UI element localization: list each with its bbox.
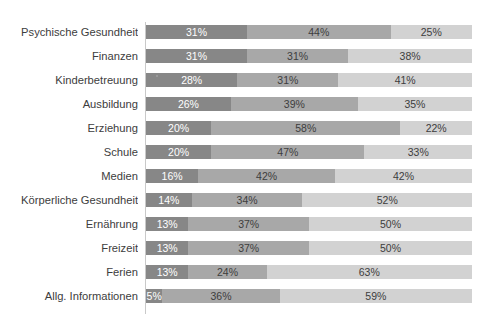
segment-value-label: 36%	[210, 291, 231, 302]
scan-artifact	[156, 75, 158, 77]
stacked-bar: 26%39%35%	[146, 97, 472, 111]
stacked-bar: 13%37%50%	[146, 217, 472, 231]
chart-row: Allg. Informationen5%36%59%	[0, 284, 484, 308]
segment-value-label: 5%	[147, 291, 162, 302]
segment-value-label: 35%	[404, 99, 425, 110]
bar-segment-series-1: 20%	[146, 145, 211, 159]
segment-value-label: 33%	[408, 147, 429, 158]
segment-value-label: 38%	[400, 51, 421, 62]
stacked-bar-chart: Psychische Gesundheit31%44%25%Finanzen31…	[0, 0, 484, 321]
bar-segment-series-2: 36%	[162, 289, 279, 303]
segment-value-label: 47%	[277, 147, 298, 158]
stacked-bar: 5%36%59%	[146, 289, 472, 303]
bar-segment-series-2: 31%	[237, 73, 338, 87]
segment-value-label: 13%	[157, 267, 178, 278]
segment-value-label: 20%	[168, 123, 189, 134]
chart-row: Ausbildung26%39%35%	[0, 92, 484, 116]
stacked-bar: 14%34%52%	[146, 193, 472, 207]
bar-segment-series-3: 25%	[391, 25, 473, 39]
stacked-bar: 13%37%50%	[146, 241, 472, 255]
bar-segment-series-3: 50%	[309, 241, 472, 255]
bar-segment-series-1: 16%	[146, 169, 198, 183]
bar-segment-series-3: 63%	[267, 265, 472, 279]
bar-segment-series-3: 33%	[364, 145, 472, 159]
segment-value-label: 14%	[158, 195, 179, 206]
bar-segment-series-3: 52%	[302, 193, 472, 207]
segment-value-label: 59%	[365, 291, 386, 302]
segment-value-label: 50%	[380, 219, 401, 230]
stacked-bar: 16%42%42%	[146, 169, 472, 183]
bar-segment-series-3: 59%	[280, 289, 472, 303]
chart-row: Ferien13%24%63%	[0, 260, 484, 284]
segment-value-label: 31%	[186, 27, 207, 38]
bar-segment-series-2: 37%	[188, 241, 309, 255]
stacked-bar: 20%47%33%	[146, 145, 472, 159]
category-label: Kinderbetreuung	[0, 68, 138, 92]
chart-row: Ernährung13%37%50%	[0, 212, 484, 236]
segment-value-label: 26%	[178, 99, 199, 110]
segment-value-label: 25%	[421, 27, 442, 38]
category-label: Ferien	[0, 260, 138, 284]
bar-segment-series-2: 42%	[198, 169, 335, 183]
segment-value-label: 39%	[284, 99, 305, 110]
bar-segment-series-1: 13%	[146, 265, 188, 279]
bar-segment-series-3: 50%	[309, 217, 472, 231]
category-label: Psychische Gesundheit	[0, 20, 138, 44]
bar-segment-series-3: 35%	[358, 97, 472, 111]
segment-value-label: 31%	[287, 51, 308, 62]
stacked-bar: 20%58%22%	[146, 121, 472, 135]
segment-value-label: 50%	[380, 243, 401, 254]
bar-segment-series-1: 28%	[146, 73, 237, 87]
chart-row: Kinderbetreuung28%31%41%	[0, 68, 484, 92]
category-label: Allg. Informationen	[0, 284, 138, 308]
bar-segment-series-1: 31%	[146, 49, 247, 63]
bar-segment-series-1: 14%	[146, 193, 192, 207]
stacked-bar: 31%31%38%	[146, 49, 472, 63]
chart-row: Erziehung20%58%22%	[0, 116, 484, 140]
segment-value-label: 37%	[238, 219, 259, 230]
segment-value-label: 44%	[308, 27, 329, 38]
category-label: Schule	[0, 140, 138, 164]
bar-segment-series-3: 38%	[348, 49, 472, 63]
bar-segment-series-2: 24%	[188, 265, 266, 279]
segment-value-label: 20%	[168, 147, 189, 158]
segment-value-label: 13%	[157, 243, 178, 254]
category-label: Ausbildung	[0, 92, 138, 116]
segment-value-label: 16%	[162, 171, 183, 182]
segment-value-label: 63%	[359, 267, 380, 278]
bar-segment-series-3: 22%	[400, 121, 472, 135]
category-label: Finanzen	[0, 44, 138, 68]
category-label: Körperliche Gesundheit	[0, 188, 138, 212]
chart-row: Freizeit13%37%50%	[0, 236, 484, 260]
bar-segment-series-1: 5%	[146, 289, 162, 303]
segment-value-label: 58%	[295, 123, 316, 134]
bar-segment-series-2: 47%	[211, 145, 364, 159]
bar-segment-series-1: 26%	[146, 97, 231, 111]
bar-segment-series-2: 58%	[211, 121, 400, 135]
segment-value-label: 37%	[238, 243, 259, 254]
bar-segment-series-2: 39%	[231, 97, 358, 111]
segment-value-label: 31%	[186, 51, 207, 62]
bar-segment-series-2: 44%	[247, 25, 390, 39]
segment-value-label: 42%	[393, 171, 414, 182]
segment-value-label: 41%	[395, 75, 416, 86]
segment-value-label: 28%	[181, 75, 202, 86]
bar-segment-series-2: 37%	[188, 217, 309, 231]
segment-value-label: 31%	[277, 75, 298, 86]
chart-row: Psychische Gesundheit31%44%25%	[0, 20, 484, 44]
segment-value-label: 24%	[217, 267, 238, 278]
category-label: Freizeit	[0, 236, 138, 260]
bar-segment-series-3: 42%	[335, 169, 472, 183]
segment-value-label: 34%	[237, 195, 258, 206]
bar-segment-series-1: 31%	[146, 25, 247, 39]
category-label: Ernährung	[0, 212, 138, 236]
bar-segment-series-2: 34%	[192, 193, 303, 207]
category-label: Erziehung	[0, 116, 138, 140]
segment-value-label: 52%	[377, 195, 398, 206]
chart-row: Finanzen31%31%38%	[0, 44, 484, 68]
chart-row: Schule20%47%33%	[0, 140, 484, 164]
stacked-bar: 13%24%63%	[146, 265, 472, 279]
segment-value-label: 42%	[256, 171, 277, 182]
chart-row: Medien16%42%42%	[0, 164, 484, 188]
category-label: Medien	[0, 164, 138, 188]
